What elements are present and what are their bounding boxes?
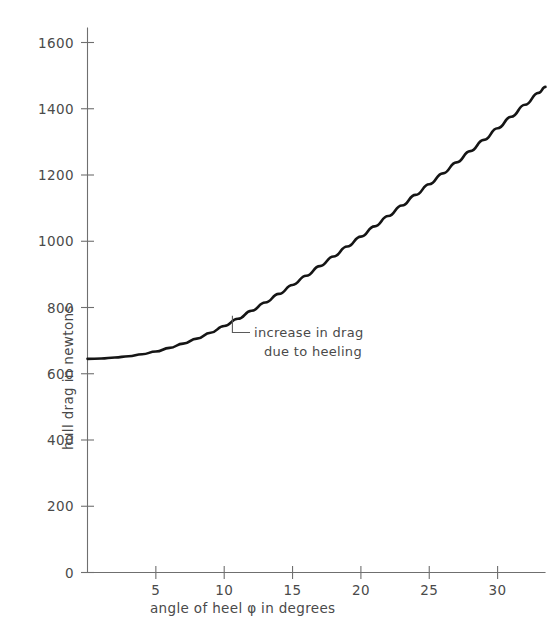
x-tick-label: 25 xyxy=(420,582,438,598)
y-tick-label: 1200 xyxy=(38,167,74,183)
x-tick-label: 20 xyxy=(352,582,370,598)
y-tick-label: 1000 xyxy=(38,233,74,249)
x-axis-title: angle of heel φ in degrees xyxy=(150,600,336,616)
y-axis-title: hull drag in newtons xyxy=(60,305,76,450)
chart-background xyxy=(0,0,560,633)
x-tick-label: 30 xyxy=(489,582,507,598)
y-tick-label: 1600 xyxy=(38,35,74,51)
y-tick-label: 200 xyxy=(47,498,74,514)
y-tick-label: 1400 xyxy=(38,101,74,117)
x-tick-label: 5 xyxy=(151,582,160,598)
x-tick-label: 15 xyxy=(284,582,302,598)
annotation-line-1: increase in drag xyxy=(254,325,364,340)
chart-figure: 02004006008001000120014001600 5101520253… xyxy=(0,0,560,633)
y-tick-label: 0 xyxy=(65,565,74,581)
annotation-line-2: due to heeling xyxy=(264,344,362,359)
hull-drag-vs-heel-chart: 02004006008001000120014001600 5101520253… xyxy=(0,0,560,633)
x-tick-label: 10 xyxy=(215,582,233,598)
